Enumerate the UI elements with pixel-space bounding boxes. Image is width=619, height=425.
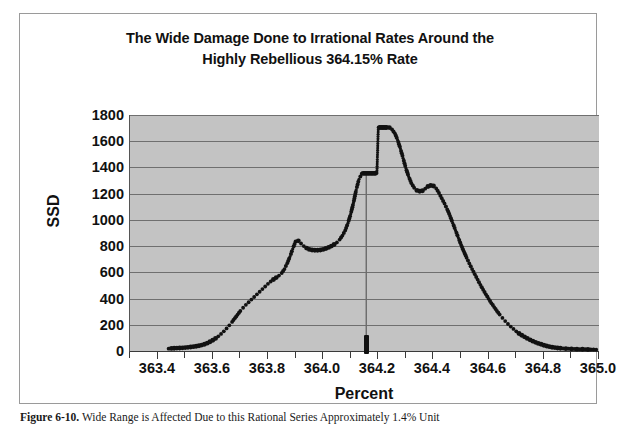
data-point (255, 292, 259, 296)
x-axis-major-tick (267, 352, 268, 359)
data-point (408, 179, 412, 183)
data-point (464, 254, 468, 258)
data-point (339, 236, 343, 240)
x-axis-major-tick (377, 352, 378, 359)
data-point (578, 347, 582, 351)
data-point (263, 285, 267, 289)
data-point (237, 311, 241, 315)
data-point (474, 275, 478, 279)
figure-caption: Figure 6-10. Wide Range is Affected Due … (20, 411, 605, 424)
x-axis-tick-label: 363.4 (127, 360, 187, 377)
data-point (503, 319, 507, 323)
y-axis-tick-label: 0 (66, 343, 124, 359)
x-axis-minor-tick (350, 352, 351, 358)
y-axis-tick-label: 1800 (66, 107, 124, 123)
x-axis-major-tick (543, 352, 544, 359)
data-point (244, 303, 248, 307)
x-axis-minor-tick (184, 352, 185, 358)
data-point (247, 300, 251, 304)
data-point (561, 346, 565, 350)
data-point (469, 264, 473, 268)
data-point (261, 287, 265, 291)
x-axis-minor-tick (405, 352, 406, 358)
data-point (231, 318, 235, 322)
data-point (287, 257, 291, 261)
x-axis-minor-tick (570, 352, 571, 358)
data-point (591, 348, 595, 352)
data-point (403, 164, 407, 168)
data-point (583, 347, 587, 351)
data-point (496, 311, 500, 315)
y-axis-tick-label: 1000 (66, 212, 124, 228)
x-axis-major-tick (322, 352, 323, 359)
x-axis-minor-tick (460, 352, 461, 358)
data-point (225, 327, 229, 331)
data-point (234, 314, 238, 318)
data-point (461, 247, 465, 251)
x-axis-tick-labels: 363.4363.6363.8364.0364.2364.4364.6364.8… (99, 360, 619, 380)
data-point (477, 280, 481, 284)
data-point (411, 183, 415, 187)
data-point (358, 174, 362, 178)
data-point (572, 347, 576, 351)
data-point (377, 128, 380, 131)
data-point (354, 190, 358, 194)
chart-frame: The Wide Damage Done to Irrational Rates… (19, 13, 597, 404)
figure-container: The Wide Damage Done to Irrational Rates… (0, 0, 619, 425)
data-point (241, 306, 245, 310)
data-point (348, 214, 352, 218)
data-point (335, 241, 339, 245)
data-point (345, 224, 349, 228)
data-point (444, 204, 448, 208)
y-axis-tick-label: 200 (66, 317, 124, 333)
x-axis-tick-label: 365.0 (568, 360, 619, 377)
data-point (252, 295, 256, 299)
data-point (342, 231, 346, 235)
data-point (395, 136, 399, 140)
data-point (447, 212, 451, 216)
y-axis-tick-labels: 020040060080010001200140016001800 (64, 107, 124, 359)
y-axis-tick-label: 1200 (66, 186, 124, 202)
data-point (453, 226, 457, 230)
x-axis-tick-label: 364.8 (513, 360, 573, 377)
x-axis-minor-tick (515, 352, 516, 358)
data-point (400, 154, 404, 158)
x-axis-tick-label: 364.6 (458, 360, 518, 377)
x-axis-tick-label: 364.2 (347, 360, 407, 377)
x-axis-tick-label: 363.8 (237, 360, 297, 377)
data-point (249, 298, 253, 302)
chart-title-line-2: Highly Rebellious 364.15% Rate (80, 49, 540, 70)
x-axis-major-tick (488, 352, 489, 359)
y-axis-tick-label: 400 (66, 291, 124, 307)
plot-area (129, 115, 599, 352)
y-axis-tick-label: 600 (66, 264, 124, 280)
data-point (406, 172, 410, 176)
data-point (219, 332, 223, 336)
data-point (281, 269, 285, 273)
data-point (290, 249, 294, 253)
data-point (222, 329, 226, 333)
x-axis-major-tick (157, 352, 158, 359)
x-axis-tick-label: 363.6 (182, 360, 242, 377)
data-point (455, 233, 459, 237)
rate-axis-marker (364, 335, 369, 354)
x-axis-tick-label: 364.4 (402, 360, 462, 377)
x-axis-major-tick (432, 352, 433, 359)
data-point (491, 303, 495, 307)
x-axis-minor-tick (129, 352, 130, 358)
data-point (227, 323, 231, 327)
figure-caption-text: Wide Range is Affected Due to this Ratio… (82, 411, 440, 423)
data-point (258, 290, 262, 294)
x-axis-title: Percent (129, 385, 599, 403)
data-point (284, 264, 288, 268)
y-axis-tick-label: 800 (66, 238, 124, 254)
x-axis-major-tick (212, 352, 213, 359)
data-point (277, 274, 281, 278)
data-point (450, 219, 454, 223)
data-point (471, 270, 475, 274)
data-point (438, 194, 442, 198)
x-axis-major-tick (598, 352, 599, 359)
x-axis-minor-tick (239, 352, 240, 358)
data-point (293, 242, 297, 246)
data-point (466, 259, 470, 263)
